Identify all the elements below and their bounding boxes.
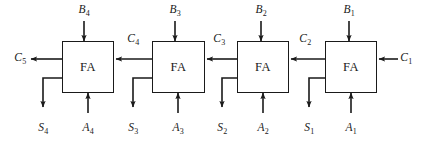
s2-output-wire xyxy=(222,78,237,107)
label-c2: C2 xyxy=(299,33,311,45)
label-b3: B3 xyxy=(169,4,180,16)
fa-block-2[interactable]: FA xyxy=(237,41,289,93)
s3-output-wire xyxy=(133,78,152,107)
fa-block-label: FA xyxy=(171,60,187,75)
label-c1: C1 xyxy=(400,52,412,64)
ripple-carry-adder-diagram: FA FA FA FA B4 B3 B2 B1 A4 A3 A2 A1 S4 S… xyxy=(0,0,423,143)
label-a2: A2 xyxy=(257,122,268,134)
label-s4: S4 xyxy=(38,122,48,134)
fa-block-4[interactable]: FA xyxy=(62,41,114,93)
label-a3: A3 xyxy=(172,122,183,134)
label-b2: B2 xyxy=(255,4,266,16)
label-b4: B4 xyxy=(78,4,89,16)
label-c5: C5 xyxy=(14,52,26,64)
s4-output-wire xyxy=(43,78,62,107)
label-b1: B1 xyxy=(343,4,354,16)
fa-block-3[interactable]: FA xyxy=(152,41,205,93)
label-c4: C4 xyxy=(127,33,139,45)
label-c3: C3 xyxy=(213,33,225,45)
label-a4: A4 xyxy=(82,122,93,134)
a-input-wires xyxy=(88,93,351,113)
fa-block-1[interactable]: FA xyxy=(325,41,377,93)
label-a1: A1 xyxy=(345,122,356,134)
s1-output-wire xyxy=(309,78,325,107)
label-s2: S2 xyxy=(217,122,227,134)
label-s1: S1 xyxy=(304,122,314,134)
fa-block-label: FA xyxy=(255,60,271,75)
label-s3: S3 xyxy=(128,122,138,134)
fa-block-label: FA xyxy=(343,60,359,75)
fa-block-label: FA xyxy=(80,60,96,75)
